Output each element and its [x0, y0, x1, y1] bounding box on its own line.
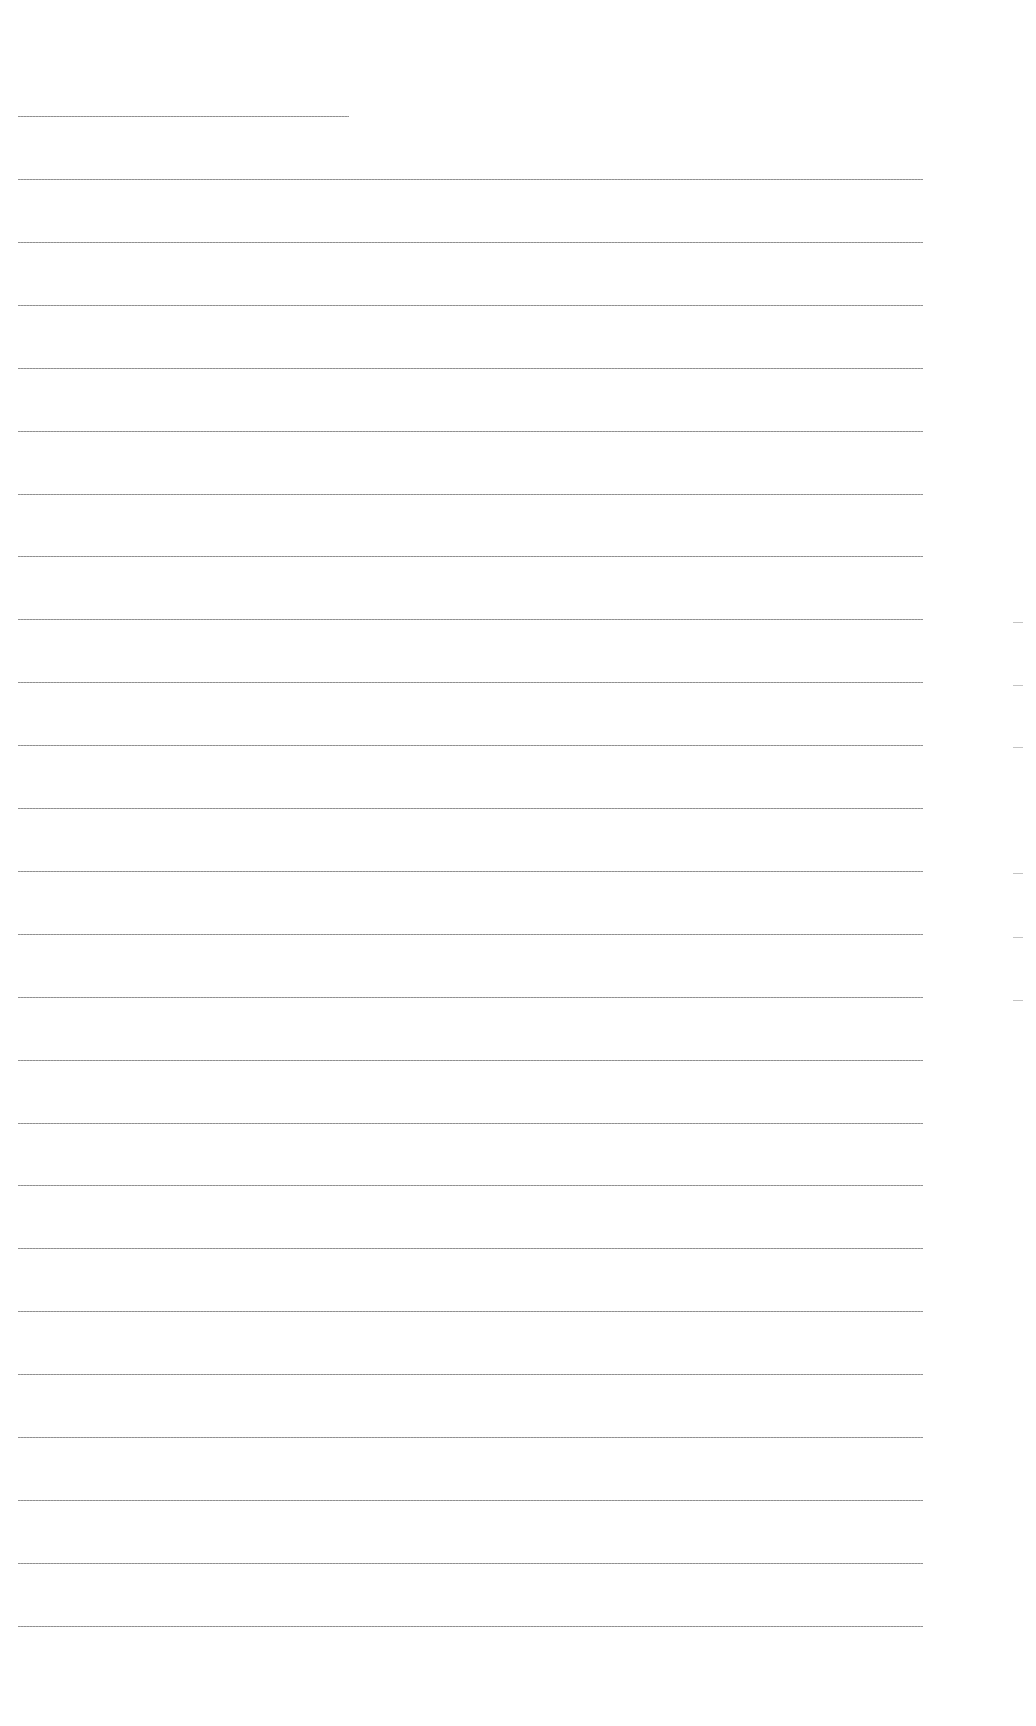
- ruled-line: [18, 305, 923, 306]
- ruled-line: [18, 745, 923, 746]
- ruled-line: [18, 682, 923, 683]
- ruled-line: [18, 808, 923, 809]
- margin-tick-mark: [1013, 937, 1023, 938]
- lined-paper-page: [0, 0, 1036, 1726]
- ruled-line: [18, 1500, 923, 1501]
- margin-tick-mark: [1013, 685, 1023, 686]
- ruled-line: [18, 619, 923, 620]
- ruled-line: [18, 871, 923, 872]
- ruled-line: [18, 1311, 923, 1312]
- ruled-line: [18, 1626, 923, 1627]
- ruled-line: [18, 1437, 923, 1438]
- ruled-line: [18, 368, 923, 369]
- ruled-line: [18, 242, 923, 243]
- ruled-line: [18, 934, 923, 935]
- ruled-line: [18, 1123, 923, 1124]
- ruled-line: [18, 431, 923, 432]
- ruled-line: [18, 556, 923, 557]
- margin-tick-mark: [1013, 622, 1023, 623]
- ruled-line: [18, 1563, 923, 1564]
- ruled-line: [18, 179, 923, 180]
- ruled-line: [18, 1185, 923, 1186]
- header-rule-line: [18, 116, 349, 117]
- ruled-line: [18, 1248, 923, 1249]
- ruled-line: [18, 1374, 923, 1375]
- margin-tick-mark: [1013, 873, 1023, 874]
- ruled-line: [18, 997, 923, 998]
- ruled-line: [18, 494, 923, 495]
- margin-tick-mark: [1013, 1000, 1023, 1001]
- margin-tick-mark: [1013, 747, 1023, 748]
- ruled-line: [18, 1060, 923, 1061]
